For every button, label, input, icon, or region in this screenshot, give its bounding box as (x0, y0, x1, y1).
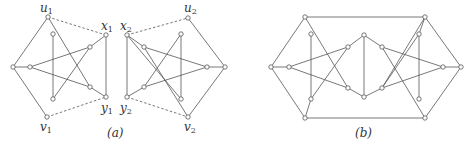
graph-vertex (287, 65, 291, 69)
graph-edge (188, 67, 225, 117)
graph-vertex (179, 32, 183, 36)
vertex-label-u2: u2 (184, 1, 197, 16)
vertex-label-x1: x1 (101, 19, 113, 34)
vertex-label-y1: y1 (100, 101, 113, 116)
graph-edge (348, 88, 364, 97)
graph-edge (289, 67, 348, 88)
graph-vertex (51, 97, 55, 101)
graph-edge (271, 67, 305, 118)
graph-edge (53, 47, 90, 99)
graph-edge (90, 87, 106, 97)
graph-edge (348, 35, 364, 47)
vertex-label-v1: v1 (40, 120, 52, 135)
graph-vertex (380, 45, 384, 49)
vertex-label-x2: x2 (120, 19, 132, 34)
graph-edge (382, 34, 419, 88)
graph-edge (364, 35, 382, 47)
panel-a-graph: u1x1y1v1x2u2y2v2 (11, 1, 227, 135)
graph-edge (188, 18, 225, 67)
graph-edge (90, 35, 106, 47)
graph-vertex (346, 45, 350, 49)
dashed-edge (127, 18, 188, 35)
graph-edge (30, 47, 90, 67)
graph-edge (13, 67, 47, 117)
graph-edge (144, 34, 181, 87)
graph-vertex (346, 86, 350, 90)
graph-vertex (441, 65, 445, 69)
dashed-edge (47, 97, 106, 117)
graph-vertex (223, 65, 227, 69)
graph-edge (382, 47, 425, 118)
graph-edge (382, 17, 425, 88)
graph-vertex (186, 115, 190, 119)
graph-edge (382, 67, 443, 88)
graph-vertex (11, 65, 15, 69)
graph-vertex (309, 97, 313, 101)
graph-edge (305, 99, 311, 118)
graph-edge (127, 35, 181, 99)
graph-vertex (423, 116, 427, 120)
panel-b-graph (269, 15, 463, 120)
graph-edge (425, 67, 461, 118)
graph-vertex (423, 15, 427, 19)
graph-vertex (125, 95, 129, 99)
vertex-label-v2: v2 (184, 120, 196, 135)
caption-a: (a) (107, 126, 124, 140)
graph-edge (127, 87, 144, 97)
graph-vertex (303, 116, 307, 120)
graph-vertex (269, 65, 273, 69)
graph-edge (144, 67, 207, 87)
graph-vertex (417, 97, 421, 101)
graph-vertex (303, 15, 307, 19)
graph-vertex (28, 65, 32, 69)
graph-edge (382, 47, 443, 67)
graph-vertex (51, 32, 55, 36)
graph-vertex (459, 65, 463, 69)
graph-vertex (205, 65, 209, 69)
graph-vertex (362, 33, 366, 37)
graph-edge (144, 47, 207, 67)
graph-vertex (179, 97, 183, 101)
graph-vertex (88, 45, 92, 49)
graph-vertex (104, 95, 108, 99)
caption-b: (b) (355, 126, 372, 140)
dashed-edge (48, 17, 106, 35)
graph-vertex (45, 115, 49, 119)
graph-vertex (417, 32, 421, 36)
graph-vertex (309, 32, 313, 36)
graph-figure: u1x1y1v1x2u2y2v2 (a) (b) (0, 0, 471, 153)
vertex-label-u1: u1 (40, 1, 53, 16)
vertex-label-y2: y2 (119, 101, 132, 116)
graph-edge (364, 88, 382, 97)
graph-edge (271, 17, 305, 67)
graph-vertex (142, 85, 146, 89)
graph-vertex (380, 86, 384, 90)
graph-edge (311, 47, 348, 99)
graph-edge (30, 67, 90, 87)
graph-edge (13, 17, 48, 67)
graph-edge (425, 17, 461, 67)
graph-vertex (88, 85, 92, 89)
graph-edge (289, 47, 348, 67)
graph-vertex (186, 16, 190, 20)
graph-vertex (142, 45, 146, 49)
graph-vertex (362, 95, 366, 99)
